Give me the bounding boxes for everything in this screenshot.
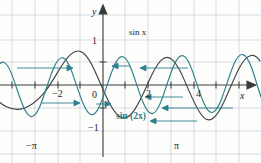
compression-arrow-4 — [150, 118, 197, 124]
x-axis-arrowhead — [247, 81, 256, 89]
compression-arrow-1 — [17, 65, 73, 71]
y-tick-label-neg-1: −1 — [88, 123, 99, 133]
y-tick-label-1: 1 — [92, 36, 97, 46]
x-tick-label-2: 2 — [146, 89, 151, 99]
compression-arrow-2 — [42, 100, 80, 106]
sin-x-curve-label: sin x — [129, 28, 146, 37]
y-axis-arrowhead — [99, 5, 107, 14]
plot-canvas — [0, 0, 261, 163]
y-axis-label: y — [92, 7, 96, 17]
x-tick-label-0: 0 — [92, 90, 97, 100]
x-tick-label-neg-2: −2 — [52, 89, 63, 99]
compression-arrow-5 — [140, 65, 188, 71]
x-tick-label-pi: π — [174, 141, 179, 151]
x-axis-label: x — [240, 91, 244, 101]
grid-lines — [0, 0, 261, 163]
axes — [0, 5, 256, 157]
x-tick-label-neg-pi: −π — [26, 141, 37, 151]
sin-2x-curve-label: sin (2x) — [116, 112, 146, 122]
sine-comparison-figure: y x sin x sin (2x) 1 −1 0 −2 2 4 −π π — [0, 0, 261, 163]
x-tick-label-4: 4 — [196, 89, 201, 99]
